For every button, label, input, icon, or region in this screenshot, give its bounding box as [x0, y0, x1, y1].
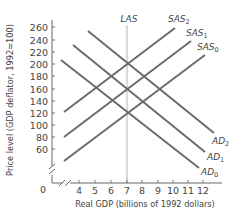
- x-tick-label: 7: [124, 185, 130, 196]
- x-tick-labels: 4 5 6 7 8 9 10 11 12: [76, 185, 209, 196]
- y-tick-label: 260: [30, 22, 48, 33]
- y-axis: [49, 20, 55, 183]
- origin-label: 0: [40, 184, 46, 195]
- las-label: LAS: [121, 14, 138, 24]
- x-tick-label: 9: [155, 185, 161, 196]
- y-tick-label: 60: [36, 144, 48, 155]
- y-tick-label: 80: [36, 132, 48, 143]
- x-tick-label: 12: [197, 185, 209, 196]
- y-tick-label: 160: [30, 84, 48, 95]
- x-tick-label: 11: [182, 185, 194, 196]
- x-tick-label: 6: [108, 185, 114, 196]
- y-tick-label: 240: [30, 35, 48, 46]
- y-tick-label: 220: [30, 47, 48, 58]
- y-tick-label: 140: [30, 96, 48, 107]
- sas1-label: SAS1: [186, 28, 208, 40]
- sas2-line: [64, 28, 175, 112]
- sas2-label: SAS2: [168, 14, 190, 26]
- ad-curves: [61, 31, 214, 168]
- ad0-label: AD0: [200, 167, 218, 179]
- x-tick-label: 10: [167, 185, 179, 196]
- y-tick-label: 180: [30, 71, 48, 82]
- x-tick-label: 8: [139, 185, 145, 196]
- ad1-line: [73, 45, 205, 152]
- y-tick-label: 120: [30, 108, 48, 119]
- ad2-label: AD2: [211, 136, 229, 148]
- sas0-label: SAS0: [197, 42, 219, 54]
- x-tick-label: 4: [76, 185, 82, 196]
- x-axis-title: Real GDP (billions of 1992 dollars): [75, 199, 215, 209]
- y-tick-label: 100: [30, 120, 48, 131]
- y-axis-title: Price level (GDP deflator, 1992=100): [5, 24, 15, 176]
- x-tick-label: 5: [92, 185, 98, 196]
- y-tick-label: 200: [30, 59, 48, 70]
- y-tick-labels: 260 240 220 200 180 160 140 120 100 80 6…: [30, 22, 48, 155]
- ad1-label: AD1: [206, 152, 224, 164]
- chart: 260 240 220 200 180 160 140 120 100 80 6…: [0, 0, 242, 216]
